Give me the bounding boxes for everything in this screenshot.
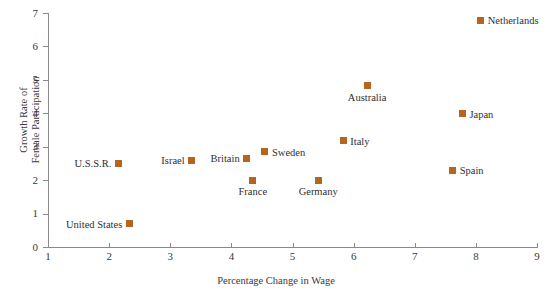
x-tick-label: 9 [522,251,552,262]
data-point-marker[interactable] [126,220,133,227]
x-tick-label: 8 [461,251,491,262]
y-tick-mark [43,180,48,181]
y-tick-mark [43,214,48,215]
data-point-label: Israel [161,155,184,166]
data-point-label: Australia [348,92,387,103]
data-point-label: France [238,186,267,197]
scatter-plot: 01234567 123456789 United StatesU.S.S.R.… [0,0,552,292]
data-point-label: Sweden [272,146,305,157]
x-tick-mark [293,243,294,248]
data-point-marker[interactable] [459,110,466,117]
data-point-marker[interactable] [243,155,250,162]
data-point-label: U.S.S.R. [75,158,112,169]
x-tick-mark [537,243,538,248]
data-point-marker[interactable] [340,137,347,144]
x-tick-label: 7 [400,251,430,262]
data-point-label: Italy [350,135,369,146]
data-point-label: Britain [210,153,239,164]
y-tick-mark [43,113,48,114]
y-tick-mark [43,13,48,14]
data-point-marker[interactable] [477,17,484,24]
x-tick-mark [354,243,355,248]
data-point-marker[interactable] [188,157,195,164]
data-point-label: Japan [469,108,493,119]
x-tick-mark [231,243,232,248]
data-point-marker[interactable] [364,82,371,89]
y-tick-mark [43,46,48,47]
x-tick-label: 6 [339,251,369,262]
data-point-marker[interactable] [261,148,268,155]
x-tick-mark [170,243,171,248]
x-tick-label: 1 [33,251,63,262]
x-tick-label: 4 [216,251,246,262]
data-point-label: Germany [299,186,338,197]
x-axis-title: Percentage Change in Wage [0,275,552,286]
data-point-label: Netherlands [488,15,539,26]
data-point-label: United States [66,218,122,229]
data-point-marker[interactable] [115,160,122,167]
data-point-marker[interactable] [449,167,456,174]
x-tick-mark [48,243,49,248]
y-axis-line [48,13,49,248]
x-tick-mark [109,243,110,248]
x-tick-mark [415,243,416,248]
y-tick-mark [43,147,48,148]
data-point-label: Spain [460,165,484,176]
x-tick-mark [476,243,477,248]
y-tick-label: 7 [0,8,38,19]
x-tick-label: 2 [94,251,124,262]
data-point-marker[interactable] [249,177,256,184]
x-tick-label: 5 [278,251,308,262]
x-tick-label: 3 [155,251,185,262]
data-point-marker[interactable] [315,177,322,184]
y-tick-mark [43,80,48,81]
y-axis-title: Growth Rate of Female Participation [18,30,42,210]
